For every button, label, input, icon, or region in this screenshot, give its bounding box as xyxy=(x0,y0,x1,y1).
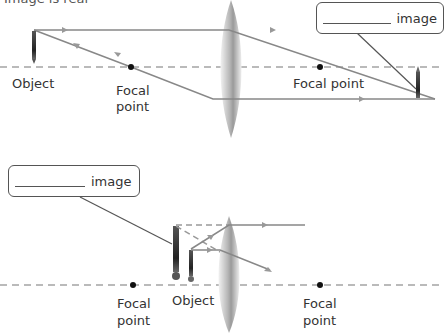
object-pencil-bottom xyxy=(189,250,193,276)
focal-point-left-bottom xyxy=(130,282,136,288)
arrowhead xyxy=(359,96,365,102)
callout-suffix: image xyxy=(397,11,438,26)
focal-point-right-top xyxy=(317,64,323,70)
ray-refracted-parallel-bottom xyxy=(191,225,305,249)
convex-lens-bottom xyxy=(219,216,240,333)
bottom-diagram xyxy=(0,197,444,333)
answer-blank[interactable] xyxy=(323,13,391,24)
focal-point-left-top xyxy=(128,64,134,70)
callout-pointer-top xyxy=(357,33,416,89)
answer-blank[interactable] xyxy=(15,176,85,187)
callout-suffix: image xyxy=(91,174,132,189)
label-focal-right-bottom-1: Focal xyxy=(303,296,337,312)
arrowhead xyxy=(270,27,276,33)
object-pencil-top xyxy=(32,31,36,59)
label-focal-right-top: Focal point xyxy=(293,76,364,92)
callout-pointer-bottom xyxy=(80,197,172,244)
arrowhead xyxy=(262,222,268,228)
lens-diagram: Image is real xyxy=(0,0,444,333)
label-focal-right-bottom-2: point xyxy=(303,313,336,329)
convex-lens-top xyxy=(221,0,242,138)
label-object-top: Object xyxy=(12,76,54,92)
label-focal-left-top-1: Focal xyxy=(116,83,150,99)
label-focal-left-top-2: point xyxy=(116,99,149,115)
image-type-callout-bottom[interactable]: image xyxy=(8,165,140,197)
virtual-image-pencil xyxy=(173,226,179,272)
label-object-bottom: Object xyxy=(172,293,214,309)
image-type-callout-top[interactable]: image xyxy=(316,2,444,34)
label-focal-left-bottom-1: Focal xyxy=(117,296,151,312)
focal-point-right-bottom xyxy=(317,282,323,288)
image-pencil-top xyxy=(416,72,420,98)
label-focal-left-bottom-2: point xyxy=(117,313,150,329)
arrowhead xyxy=(62,27,68,33)
arrowhead xyxy=(114,52,121,57)
